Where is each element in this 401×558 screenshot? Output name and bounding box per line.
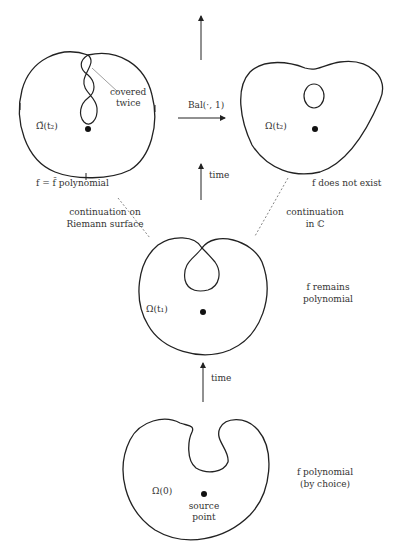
label-balayage: Bal(·, 1) [188,100,224,111]
caption-f-polynomial: f = f̃ polynomial [36,178,109,189]
branch-left-line1: continuation on [60,207,150,218]
label-time-lower: time [211,373,231,384]
caption-remains-line1: f remains [288,282,368,293]
domain-riemann-surface [19,52,155,180]
annotation-twice: twice [116,98,141,109]
label-source: source [179,501,229,512]
label-omega-t2: Ω(t₂) [265,121,287,132]
domain-intermediate [139,238,267,355]
label-omega-tilde-t2: Ω̃(t₂) [36,121,58,132]
branch-right-line1: continuation [275,207,355,218]
caption-bottom-line1: f polynomial [285,467,365,478]
diagram-canvas: covered twice Ω̃(t₂) f = f̃ polynomial B… [0,0,401,558]
domain-complex-plane [241,61,383,173]
dashed-left-branch [118,198,150,238]
branch-left-line2: Riemann surface [60,219,150,230]
branch-right-line2: in ℂ [275,219,355,230]
caption-remains-line2: polynomial [288,294,368,305]
label-omega-t1: Ω(t₁) [146,304,168,315]
annotation-covered: covered [110,87,146,98]
label-time-upper: time [209,170,229,181]
label-omega-0: Ω(0) [152,486,172,497]
label-point: point [179,512,229,523]
caption-bottom-line2: (by choice) [285,479,365,490]
caption-f-not-exist: f does not exist [312,178,381,189]
